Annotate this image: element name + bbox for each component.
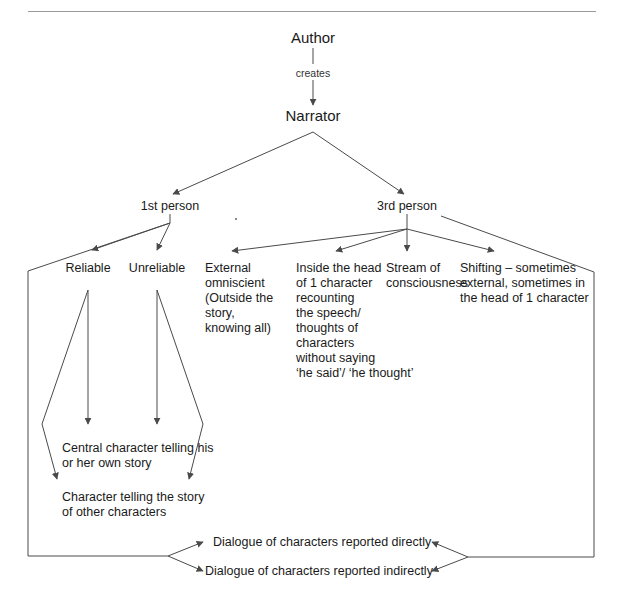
node-stream-of-consciousness: Stream of consciousness xyxy=(386,261,468,291)
node-author: Author xyxy=(291,29,335,47)
node-third-person: 3rd person xyxy=(377,199,437,214)
edge-label-creates: creates xyxy=(296,66,330,81)
node-first-person: 1st person xyxy=(141,199,199,214)
edge-left-to-dialogue-direct xyxy=(168,542,203,556)
node-external-omniscient: External omniscient (Outside the story, … xyxy=(205,261,273,336)
node-reliable: Reliable xyxy=(65,261,110,276)
edge-third-to-inside-head xyxy=(336,229,407,251)
node-character-telling: Character telling the story of other cha… xyxy=(62,490,204,520)
node-unreliable: Unreliable xyxy=(129,261,185,276)
edge-third-to-external xyxy=(232,229,407,251)
node-narrator: Narrator xyxy=(285,107,340,125)
edge-left-to-dialogue-indirect xyxy=(168,556,203,571)
edge-right-to-dialogue-indirect xyxy=(432,557,468,571)
edge-narrator-to-first-person xyxy=(173,132,313,194)
node-central-character: Central character telling his or her own… xyxy=(62,441,213,471)
edge-third-to-shifting xyxy=(407,229,494,251)
narrator-diagram: Author creates Narrator 1st person 3rd p… xyxy=(0,0,623,613)
node-dialogue-direct: Dialogue of characters reported directly xyxy=(213,535,431,550)
node-dialogue-indirect: Dialogue of characters reported indirect… xyxy=(205,564,433,579)
scan-speck xyxy=(235,218,237,220)
edge-right-to-dialogue-direct xyxy=(432,542,468,557)
node-shifting: Shifting – sometimes external, sometimes… xyxy=(460,261,589,306)
edge-narrator-to-third-person xyxy=(313,132,404,194)
